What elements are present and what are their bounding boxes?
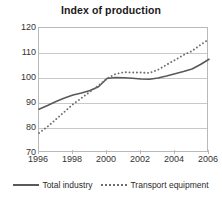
legend-label: Total industry xyxy=(42,180,92,190)
dotted-line-swatch-icon xyxy=(101,184,127,186)
x-axis-tick-mark xyxy=(72,150,73,154)
legend-entry-transport-equipment: Transport equipment xyxy=(101,180,208,190)
plot-area xyxy=(38,27,208,152)
x-axis-tick-mark xyxy=(140,150,141,154)
y-axis-tick-label: 100 xyxy=(2,73,36,82)
x-axis-tick-label: 1996 xyxy=(21,154,55,164)
series-line xyxy=(39,59,209,109)
x-axis-tick-mark xyxy=(208,150,209,154)
legend-entry-total-industry: Total industry xyxy=(13,180,92,190)
y-axis: 120110100908070 xyxy=(0,0,36,200)
chart-figure: Index of production 120110100908070 1996… xyxy=(0,0,222,200)
x-axis: 199619982000200220042006 xyxy=(0,154,222,168)
y-axis-tick-label: 90 xyxy=(2,98,36,107)
y-axis-tick-label: 110 xyxy=(2,48,36,57)
series-line xyxy=(39,39,209,133)
y-axis-tick-label: 80 xyxy=(2,123,36,132)
x-axis-tick-label: 1998 xyxy=(55,154,89,164)
series-lines xyxy=(39,28,209,153)
x-axis-tick-mark xyxy=(106,150,107,154)
chart-legend: Total industry Transport equipment xyxy=(0,178,222,192)
x-axis-tick-label: 2000 xyxy=(89,154,123,164)
x-axis-tick-label: 2002 xyxy=(123,154,157,164)
x-axis-tick-mark xyxy=(38,150,39,154)
solid-line-swatch-icon xyxy=(13,184,39,186)
y-axis-tick-label: 120 xyxy=(2,23,36,32)
x-axis-tick-mark xyxy=(174,150,175,154)
legend-label: Transport equipment xyxy=(130,180,208,190)
x-axis-tick-label: 2006 xyxy=(191,154,222,164)
x-axis-tick-label: 2004 xyxy=(157,154,191,164)
